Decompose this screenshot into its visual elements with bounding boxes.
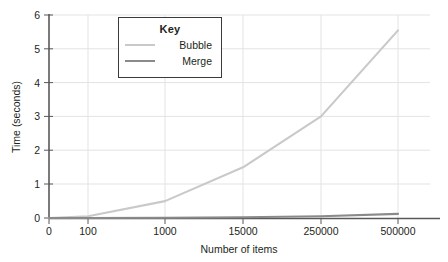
y-tick-label-6: 6: [34, 9, 40, 21]
x-tick-label-500000: 500000: [380, 225, 415, 237]
y-tick-label-5: 5: [34, 43, 40, 55]
x-tick-label-0: 0: [46, 225, 52, 237]
y-tick-label-3: 3: [34, 110, 40, 122]
y-tick-label-1: 1: [34, 178, 40, 190]
plot-area: 6 5 4 3 2 1 0 0 100 1000 15000 250000 50…: [0, 0, 448, 262]
x-tick-label-1000: 1000: [153, 225, 177, 237]
x-tick-label-100: 100: [79, 225, 97, 237]
legend-title: Key: [119, 23, 221, 35]
legend-item-bubble[interactable]: Bubble: [119, 39, 221, 51]
grid-lines: [49, 15, 430, 218]
legend-label-bubble: Bubble: [155, 39, 214, 51]
legend-swatch-bubble: [125, 44, 155, 46]
x-tick-labels: 0 100 1000 15000 250000 500000: [46, 225, 416, 237]
series-lines: [49, 30, 398, 218]
y-tick-label-4: 4: [34, 77, 40, 89]
legend-swatch-merge: [125, 60, 155, 62]
x-tick-label-250000: 250000: [303, 225, 338, 237]
series-line-bubble: [49, 30, 398, 218]
x-axis-title: Number of items: [200, 243, 277, 255]
y-tick-label-0: 0: [34, 212, 40, 224]
y-tick-label-2: 2: [34, 144, 40, 156]
legend-item-merge[interactable]: Merge: [119, 55, 221, 67]
line-chart: 6 5 4 3 2 1 0 0 100 1000 15000 250000 50…: [0, 0, 448, 262]
y-tick-labels: 6 5 4 3 2 1 0: [34, 9, 40, 224]
legend-label-merge: Merge: [155, 55, 214, 67]
legend: Key Bubble Merge: [118, 17, 222, 78]
y-axis-title: Time (seconds): [10, 81, 22, 153]
x-tick-label-15000: 15000: [228, 225, 257, 237]
